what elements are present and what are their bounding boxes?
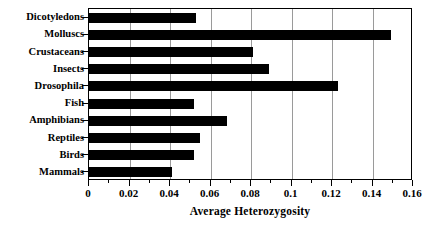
category-label-drosophila: Drosophila: [0, 80, 84, 91]
bar: [89, 81, 338, 91]
bar: [89, 133, 200, 143]
bar: [89, 167, 172, 177]
category-tick: [82, 85, 88, 86]
bar: [89, 116, 227, 126]
category-tick: [82, 51, 88, 52]
x-tick-label: 0: [85, 187, 91, 199]
x-tick-minor: [108, 180, 109, 183]
bar: [89, 13, 196, 23]
x-tick-major: [88, 180, 89, 186]
category-tick: [82, 34, 88, 35]
bar: [89, 150, 194, 160]
x-tick-minor: [351, 180, 352, 183]
category-axis-labels: DicotyledonsMolluscsCrustaceansInsectsDr…: [0, 8, 84, 180]
category-label-molluscs: Molluscs: [0, 28, 84, 39]
x-tick-label: 0.04: [159, 187, 178, 199]
x-tick-label: 0.02: [119, 187, 138, 199]
category-label-dicotyledons: Dicotyledons: [0, 11, 84, 22]
x-tick-major: [250, 180, 251, 186]
category-tick: [82, 17, 88, 18]
category-label-mammals: Mammals: [0, 166, 84, 177]
x-axis-title: Average Heterozygosity: [88, 205, 412, 217]
x-tick-minor: [230, 180, 231, 183]
x-tick-major: [169, 180, 170, 186]
bar: [89, 99, 194, 109]
x-tick-major: [210, 180, 211, 186]
x-tick-major: [129, 180, 130, 186]
category-label-insects: Insects: [0, 63, 84, 74]
x-tick-minor: [149, 180, 150, 183]
category-label-crustaceans: Crustaceans: [0, 46, 84, 57]
x-axis-ticks: [88, 180, 412, 187]
x-tick-label: 0.12: [321, 187, 340, 199]
x-tick-major: [372, 180, 373, 186]
category-tick: [82, 154, 88, 155]
x-tick-label: 0.14: [362, 187, 381, 199]
category-label-birds: Birds: [0, 149, 84, 160]
category-tick: [82, 137, 88, 138]
category-tick: [82, 171, 88, 172]
plot-inner: [89, 9, 411, 179]
category-label-fish: Fish: [0, 97, 84, 108]
x-tick-minor: [189, 180, 190, 183]
bar: [89, 64, 269, 74]
x-tick-label: 0.06: [200, 187, 219, 199]
x-tick-major: [412, 180, 413, 186]
x-tick-minor: [311, 180, 312, 183]
category-label-amphibians: Amphibians: [0, 114, 84, 125]
x-tick-major: [331, 180, 332, 186]
bar: [89, 47, 253, 57]
x-tick-label: 0.1: [284, 187, 298, 199]
plot-area: [88, 8, 412, 180]
x-axis-tick-labels: 00.020.040.060.080.10.120.140.16: [88, 187, 412, 201]
category-tick: [82, 103, 88, 104]
category-label-reptiles: Reptiles: [0, 132, 84, 143]
chart-figure: DicotyledonsMolluscsCrustaceansInsectsDr…: [0, 0, 437, 233]
x-tick-label: 0.08: [240, 187, 259, 199]
x-tick-major: [291, 180, 292, 186]
category-tick: [82, 120, 88, 121]
x-tick-minor: [270, 180, 271, 183]
bar: [89, 30, 391, 40]
category-tick: [82, 68, 88, 69]
x-tick-minor: [392, 180, 393, 183]
x-tick-label: 0.16: [402, 187, 421, 199]
